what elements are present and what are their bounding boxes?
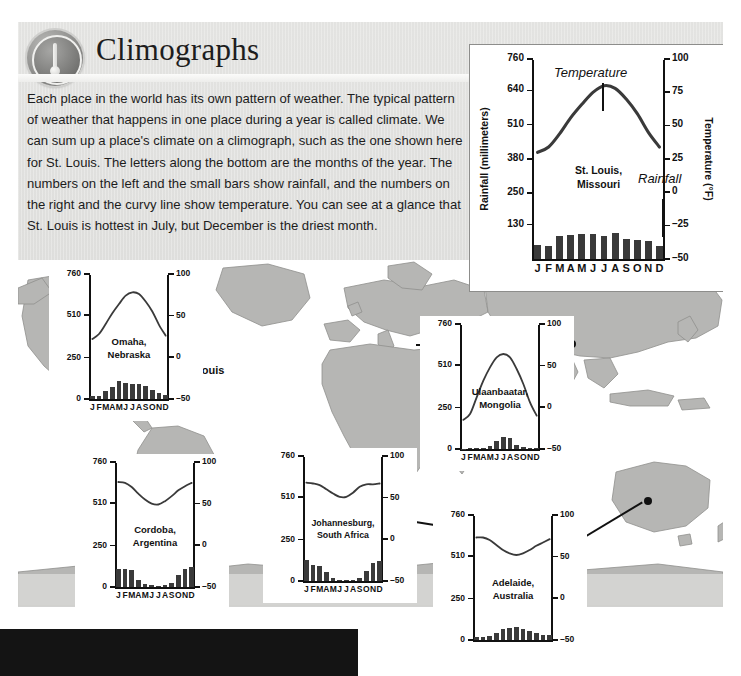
- month-label: A: [610, 262, 621, 274]
- month-label: O: [363, 584, 370, 594]
- month-label: S: [526, 643, 533, 644]
- month-label: J: [115, 590, 122, 600]
- place-label: Johannesburg,South Africa: [303, 518, 383, 542]
- month-label: J: [303, 584, 310, 594]
- annotation-temperature-pointer: [602, 83, 604, 111]
- month-label: J: [473, 643, 480, 644]
- annotation-rainfall: Rainfall: [638, 171, 681, 186]
- place-label: Omaha,Nebraska: [89, 336, 169, 362]
- thermometer-icon-stem: [53, 43, 57, 68]
- climograph-omaha: 0250510760–50050100 JFMAMJJASONDOmaha,Ne…: [49, 266, 203, 421]
- month-label: M: [576, 262, 587, 274]
- month-label: O: [632, 262, 643, 274]
- month-label: M: [316, 584, 323, 594]
- month-label: J: [148, 590, 155, 600]
- month-label: J: [89, 402, 96, 412]
- month-label: O: [175, 590, 182, 600]
- month-label: J: [336, 584, 343, 594]
- month-label: O: [533, 643, 540, 644]
- month-label: J: [532, 262, 543, 274]
- month-label: S: [513, 452, 520, 462]
- climograph-cordoba: 0250510760–50050100 JFMAMJJASONDCordoba,…: [75, 454, 229, 609]
- month-label: A: [323, 584, 330, 594]
- y-axis-title: Rainfall (millimeters): [478, 107, 490, 210]
- month-label: O: [149, 402, 156, 412]
- intro-paragraph: Each place in the world has its own patt…: [27, 88, 467, 236]
- month-label: M: [473, 452, 480, 462]
- month-label: F: [543, 262, 554, 274]
- month-label: A: [109, 402, 116, 412]
- month-label: A: [135, 590, 142, 600]
- month-label: D: [654, 262, 665, 274]
- month-label: J: [500, 452, 507, 462]
- month-label: D: [162, 402, 169, 412]
- month-label: J: [493, 452, 500, 462]
- month-label: A: [480, 452, 487, 462]
- intro-text: Each place in the world has its own patt…: [27, 88, 467, 236]
- place-label: Ulaanbaatar,Mongolia: [460, 386, 540, 412]
- month-label: M: [102, 402, 109, 412]
- month-label: J: [506, 643, 513, 644]
- month-label: S: [356, 584, 363, 594]
- temperature-curve: [433, 507, 587, 644]
- month-label: J: [599, 262, 610, 274]
- month-label: S: [142, 402, 149, 412]
- month-label: O: [520, 452, 527, 462]
- month-label: J: [460, 452, 467, 462]
- month-label: J: [155, 590, 162, 600]
- month-label: J: [122, 402, 129, 412]
- month-label: A: [493, 643, 500, 644]
- page-title: Climographs: [96, 32, 259, 68]
- climograph-johannesburg: 0250510760–50050100 JFMAMJJASONDJohannes…: [263, 448, 417, 603]
- page-footer-block: [0, 629, 358, 676]
- month-label: N: [643, 262, 654, 274]
- month-label: D: [188, 590, 195, 600]
- climograph-ulaanbaatar: 0250510760–50050100 JFMAMJJASONDUlaanbaa…: [420, 316, 574, 471]
- month-label: D: [533, 452, 540, 462]
- month-label: J: [587, 262, 598, 274]
- month-label: S: [168, 590, 175, 600]
- month-label: M: [128, 590, 135, 600]
- month-label: S: [621, 262, 632, 274]
- month-label: J: [513, 643, 520, 644]
- place-label: Cordoba,Argentina: [115, 524, 195, 550]
- month-label: D: [376, 584, 383, 594]
- place-label: Adelaide,Australia: [473, 577, 553, 603]
- month-label: M: [486, 643, 493, 644]
- climograph-adelaide: 0250510760–50050100 JFMAMJJASONDAdelaide…: [433, 507, 587, 644]
- month-label: J: [343, 584, 350, 594]
- page-card: Climographs Each place in the world has …: [18, 22, 723, 644]
- month-label: J: [129, 402, 136, 412]
- month-label: A: [565, 262, 576, 274]
- annotation-rainfall-pointer: [662, 199, 664, 237]
- month-label: M: [554, 262, 565, 274]
- month-label: D: [546, 643, 553, 644]
- climograph-st-louis: 130250380510640760–50–250255075100 JFMAM…: [470, 45, 723, 291]
- y2-axis-title: Temperature (°F): [703, 117, 715, 200]
- annotation-temperature: Temperature: [554, 65, 627, 80]
- map-dot-adelaide: [644, 497, 652, 505]
